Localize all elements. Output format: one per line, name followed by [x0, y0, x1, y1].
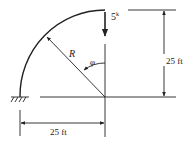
- radius-arrow-icon: [47, 37, 105, 97]
- load-label: 5k: [111, 11, 119, 22]
- fixed-support-icon: [11, 97, 29, 102]
- beam-diagram: 5k R φ 25 ft 25 ft: [0, 0, 193, 146]
- horizontal-dimension-label: 25 ft: [50, 127, 67, 137]
- radius-label: R: [68, 48, 75, 59]
- vertical-dimension-label: 25 ft: [166, 56, 183, 66]
- angle-label: φ: [90, 57, 95, 67]
